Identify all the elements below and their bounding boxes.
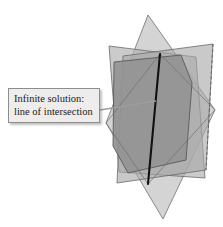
intersecting-planes-figure: Infinite solution: line of intersection [0, 0, 223, 227]
callout-label: Infinite solution: line of intersection [8, 88, 100, 123]
callout-line-1: Infinite solution: [14, 92, 95, 105]
callout-line-2: line of intersection [14, 105, 95, 118]
plane-front-shaded [113, 55, 192, 173]
